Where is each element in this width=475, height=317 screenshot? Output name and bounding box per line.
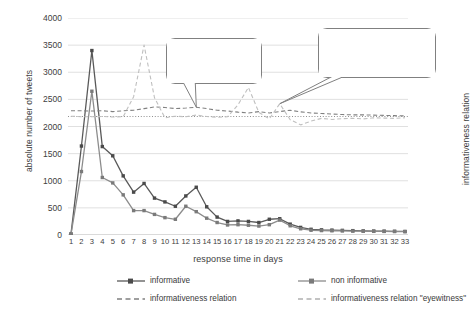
legend-label: informative [150,277,190,285]
chart-legend: informative non informative informativen… [50,272,450,312]
legend-item-informative: informative [116,276,190,286]
annotation-mask [167,39,261,83]
annotation-leader-nonconstant [280,76,345,104]
legend-symbol-dashed [116,294,146,304]
legend-symbol-solid-marker [297,276,327,286]
annotation-mask [319,29,435,77]
legend-item-informativeness-relation: informativeness relation [116,294,236,304]
legend-label: non informative [331,277,387,285]
legend-label: informativeness relation [150,295,236,303]
legend-item-non-informative: non informative [297,276,387,286]
annotation-leader-lines [0,0,475,317]
legend-item-informativeness-relation-eyewitness: informativeness relation "eyewitness" [297,294,466,304]
legend-symbol-dashed [297,294,327,304]
legend-label: informativeness relation "eyewitness" [331,295,466,303]
legend-symbol-solid-marker [116,276,146,286]
chart-container: absolute number of tweets informativenes… [0,0,475,317]
